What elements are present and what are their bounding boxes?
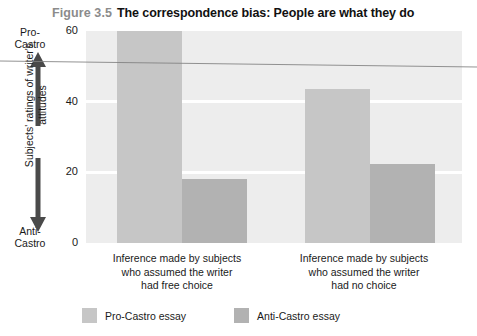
legend-swatch-anti-castro: [234, 308, 249, 323]
x-axis-category-0-line-0: Inference made by subjects: [82, 252, 272, 266]
legend-label-pro-castro: Pro-Castro essay: [105, 310, 186, 322]
x-axis-category-1-line-2: had no choice: [269, 279, 459, 293]
legend-swatch-pro-castro: [82, 308, 97, 323]
bar-pro-castro-group-0: [117, 31, 182, 243]
legend-item-pro-castro: Pro-Castro essay: [82, 308, 186, 323]
bar-pro-castro-group-1: [305, 89, 370, 243]
x-axis-category-0-line-1: who assumed the writer: [82, 266, 272, 280]
x-axis-category-1: Inference made by subjectswho assumed th…: [269, 252, 459, 293]
bar-anti-castro-group-0: [182, 179, 247, 243]
x-axis-category-1-line-1: who assumed the writer: [269, 266, 459, 280]
plot-area: [86, 31, 462, 243]
bar-anti-castro-group-1: [370, 164, 435, 244]
chart-container: 0204060 Pro- Castro Anti- Castro Subject…: [0, 0, 477, 336]
legend-label-anti-castro: Anti-Castro essay: [257, 310, 340, 322]
legend-item-anti-castro: Anti-Castro essay: [234, 308, 340, 323]
pole-low-line2: Castro: [4, 237, 56, 249]
x-axis-category-1-line-0: Inference made by subjects: [269, 252, 459, 266]
x-axis-category-0: Inference made by subjectswho assumed th…: [82, 252, 272, 293]
y-axis-label: Subjects' ratings of writer's attitudes: [23, 25, 49, 185]
x-axis-category-0-line-2: had free choice: [82, 279, 272, 293]
y-axis-tick-20: 20: [52, 165, 78, 177]
y-axis-tick-40: 40: [52, 95, 78, 107]
chart-legend: Pro-Castro essay Anti-Castro essay: [82, 308, 340, 323]
